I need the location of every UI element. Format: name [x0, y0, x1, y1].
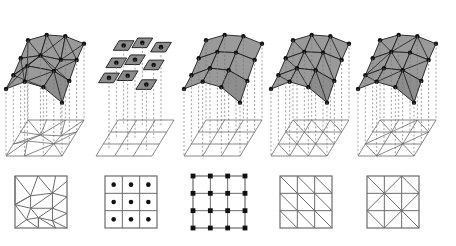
projected-grid-diagonal: [278, 144, 289, 156]
reference-square-border: [15, 176, 67, 228]
reference-node-marker: [225, 208, 230, 213]
projected-grid-diagonal: [28, 120, 40, 135]
projected-grid-col-line: [240, 120, 262, 156]
surface-mesh-3d-uniform-diagonal-triangulation: [269, 33, 351, 105]
reference-node-marker: [225, 191, 230, 196]
reference-node-marker: [243, 174, 248, 179]
reference-node-marker: [243, 208, 248, 213]
reference-cell-center-dot: [111, 200, 116, 205]
panel-irregular-triangulation: [0, 0, 91, 246]
reference-cell-diagram-piecewise-constant-cells: [105, 176, 157, 228]
panel-svg-criss-cross-triangulation: [352, 0, 443, 246]
panel-svg-piecewise-constant-cells: [90, 0, 181, 246]
reference-node-marker: [208, 191, 213, 196]
projected-grid-col-line: [290, 120, 312, 156]
projected-grid-diagonal: [286, 132, 297, 144]
projected-grid-col-line: [308, 120, 330, 156]
panel-svg-irregular-triangulation: [0, 0, 91, 246]
projected-grid-uniform-diagonal-triangulation: [271, 120, 349, 156]
reference-node-marker: [243, 226, 248, 231]
projected-grid-col-line: [327, 120, 349, 156]
reference-cell-center-dot: [111, 217, 116, 222]
projected-grid-diagonal: [293, 120, 304, 132]
projected-grid-diagonal: [304, 132, 315, 144]
reference-cell-center-dot: [129, 200, 134, 205]
surface-mesh-3d-criss-cross-triangulation: [356, 33, 438, 105]
projected-grid-col-line: [221, 120, 243, 156]
panel-bilinear-quad-mesh: [178, 0, 269, 246]
reference-node-marker: [191, 191, 196, 196]
projected-grid-diagonal: [297, 144, 308, 156]
projected-grid-col-line: [203, 120, 225, 156]
projected-grid-irregular-triangulation: [6, 120, 84, 156]
projected-grid-diagonal: [417, 120, 428, 132]
projected-grid-diagonal: [323, 132, 334, 144]
reference-node-marker: [208, 208, 213, 213]
reference-cell-center-dot: [146, 200, 151, 205]
projected-grid-row-line: [21, 132, 77, 136]
figure-root: [0, 0, 456, 246]
projected-grid-diagonal: [25, 144, 54, 156]
reference-node-marker: [243, 191, 248, 196]
panel-criss-cross-triangulation: [352, 0, 443, 246]
surface-mesh-3d-irregular-triangulation: [4, 33, 86, 105]
reference-node-marker: [225, 226, 230, 231]
projected-grid-criss-cross-triangulation: [358, 120, 436, 156]
projected-grid-diagonal: [380, 120, 391, 132]
projected-grid-diagonal: [316, 144, 327, 156]
reference-cell-diagram-uniform-diagonal-triangulation: [280, 176, 332, 228]
panel-piecewise-constant-cells: [90, 0, 181, 246]
reference-cell-diagram-bilinear-quad-mesh: [191, 174, 248, 231]
projected-grid-bilinear-quad-mesh: [184, 120, 262, 156]
projected-grid-col-line: [414, 120, 436, 156]
surface-quad-facet: [61, 36, 84, 60]
projected-grid-diagonal: [403, 144, 414, 156]
reference-cell-diagram-irregular-triangulation: [15, 176, 67, 228]
reference-cell-center-dot: [129, 217, 134, 222]
panel-uniform-diagonal-triangulation: [265, 0, 356, 246]
reference-square-border: [193, 176, 245, 228]
projected-grid-diagonal: [365, 144, 376, 156]
reference-node-marker: [208, 226, 213, 231]
reference-cell-center-dot: [146, 182, 151, 187]
projected-grid-diagonal: [330, 120, 341, 132]
projected-grid-col-line: [133, 120, 155, 156]
reference-cell-center-dot: [111, 182, 116, 187]
reference-node-marker: [208, 174, 213, 179]
projected-grid-col-line: [25, 120, 47, 156]
projected-grid-col-line: [152, 120, 174, 156]
panel-svg-uniform-diagonal-triangulation: [265, 0, 356, 246]
projected-grid-diagonal: [391, 132, 402, 144]
projected-grid-diagonal: [312, 120, 323, 132]
surface-mesh-3d-bilinear-quad-mesh: [182, 33, 264, 105]
projected-grid-diagonal: [54, 144, 62, 156]
reference-node-marker: [225, 174, 230, 179]
reference-node-marker: [191, 174, 196, 179]
projected-grid-col-line: [43, 120, 65, 156]
reference-cell-center-dot: [146, 217, 151, 222]
reference-node-marker: [191, 208, 196, 213]
panel-svg-bilinear-quad-mesh: [178, 0, 269, 246]
reference-cell-center-dot: [129, 182, 134, 187]
projected-grid-col-line: [115, 120, 137, 156]
reference-cell-diagram-criss-cross-triangulation: [367, 176, 419, 228]
reference-node-marker: [191, 226, 196, 231]
projected-grid-col-line: [96, 120, 118, 156]
